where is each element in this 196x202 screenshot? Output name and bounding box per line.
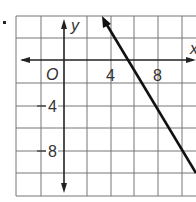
xtick-label-4: 4 [106, 67, 115, 84]
line-arrow-icon [102, 16, 111, 28]
origin-label: O [46, 66, 58, 83]
y-axis-up-arrow-icon [61, 19, 67, 29]
coordinate-graph: y x O 4 8 4 8 [0, 0, 196, 202]
y-axis-down-arrow-icon [61, 183, 67, 193]
ytick-label-neg8: 8 [48, 143, 57, 160]
x-axis-label: x [189, 40, 196, 57]
y-axis-label: y [70, 17, 80, 34]
x-axis-left-arrow-icon [20, 57, 30, 63]
graph-svg: y x O 4 8 4 8 [0, 0, 196, 202]
problem-bullet [3, 21, 6, 24]
x-axis-right-arrow-icon [186, 57, 196, 63]
ytick-label-neg4: 4 [48, 98, 57, 115]
x-axis [20, 57, 196, 63]
xtick-label-8: 8 [153, 67, 162, 84]
